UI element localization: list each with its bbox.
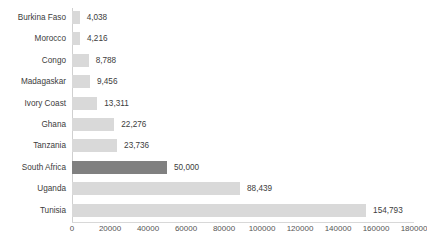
bar-value-label: 50,000	[167, 158, 199, 177]
bar-row: South Africa50,000	[72, 158, 414, 179]
category-label: Tunisia	[40, 201, 66, 220]
category-label: Morocco	[35, 29, 66, 48]
bar-value-label: 4,038	[80, 8, 108, 27]
bar-value-label: 13,311	[97, 94, 128, 113]
category-label: Burkina Faso	[18, 8, 66, 27]
category-label: South Africa	[22, 158, 66, 177]
bar-row: Congo8,788	[72, 51, 414, 72]
bar-highlighted	[72, 161, 167, 174]
bar-value-label: 8,788	[89, 51, 117, 70]
x-tick-label: 80000	[213, 224, 235, 233]
category-label: Ghana	[41, 115, 66, 134]
bar-value-label: 4,216	[80, 29, 108, 48]
bar	[72, 97, 97, 110]
x-tick-label: 0	[70, 224, 74, 233]
bar-value-label: 154,793	[366, 201, 403, 220]
bar-row: Madagaskar9,456	[72, 72, 414, 93]
plot-area: Burkina Faso4,038Morocco4,216Congo8,788M…	[72, 8, 414, 222]
bar	[72, 75, 90, 88]
category-label: Ivory Coast	[25, 94, 66, 113]
bar-row: Tunisia154,793	[72, 201, 414, 222]
bar-row: Morocco4,216	[72, 29, 414, 50]
bar-row: Burkina Faso4,038	[72, 8, 414, 29]
bar-value-label: 88,439	[240, 179, 272, 198]
x-tick-label: 100000	[249, 224, 276, 233]
value-axis-line	[72, 222, 414, 223]
x-tick-label: 40000	[137, 224, 159, 233]
bar-value-label: 22,276	[114, 115, 146, 134]
bar-row: Ivory Coast13,311	[72, 94, 414, 115]
x-tick-label: 60000	[175, 224, 197, 233]
x-tick-label: 140000	[325, 224, 352, 233]
x-tick-label: 120000	[287, 224, 314, 233]
x-axis-tick-labels: 0200004000060000800001000001200001400001…	[72, 224, 414, 240]
bar	[72, 11, 80, 24]
bar	[72, 182, 240, 195]
bar	[72, 54, 89, 67]
category-label: Madagaskar	[21, 72, 66, 91]
bar	[72, 118, 114, 131]
bar-value-label: 9,456	[90, 72, 118, 91]
x-tick-label: 160000	[363, 224, 390, 233]
x-tick-label: 20000	[99, 224, 121, 233]
bar	[72, 139, 117, 152]
x-tick-label: 180000	[401, 224, 427, 233]
category-label: Tanzania	[33, 136, 66, 155]
category-label: Congo	[42, 51, 66, 70]
bar-row: Uganda88,439	[72, 179, 414, 200]
bar-row: Ghana22,276	[72, 115, 414, 136]
category-label: Uganda	[37, 179, 66, 198]
bar-value-label: 23,736	[117, 136, 149, 155]
bar	[72, 32, 80, 45]
bar-row: Tanzania23,736	[72, 136, 414, 157]
bar	[72, 204, 366, 217]
